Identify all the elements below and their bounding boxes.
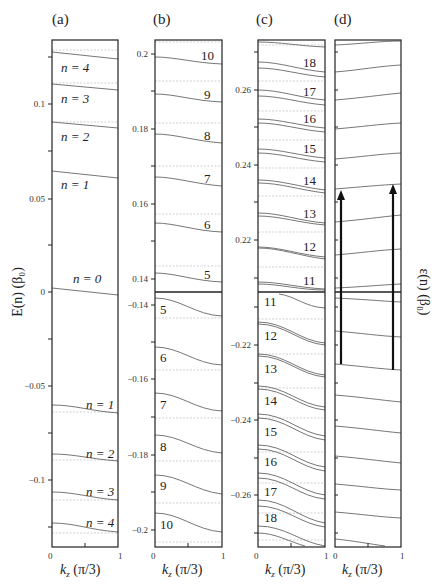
y-tick-label: 0.14 <box>132 274 148 284</box>
band-label: 18 <box>303 55 316 70</box>
band-label: 17 <box>264 484 278 499</box>
y-tick-label: −0.05 <box>24 381 45 391</box>
band-label: 8 <box>204 128 211 143</box>
y-tick-label: 0.2 <box>137 49 148 59</box>
panel-d-label: (d) <box>334 11 352 28</box>
x-tick-1: 1 <box>221 551 226 561</box>
panel-a: (a) n = 4 n = 3 n = 2 n = 1 n = 0 <box>10 11 123 579</box>
x-tick-0: 0 <box>254 551 259 561</box>
x-tick-0: 0 <box>333 551 338 561</box>
band-label: 5 <box>204 267 211 282</box>
y-tick-label: −0.26 <box>230 490 251 500</box>
n-label: n = 1 <box>61 177 89 192</box>
band-label: 6 <box>204 217 211 232</box>
x-tick-0: 0 <box>151 551 156 561</box>
band-label: 9 <box>204 87 211 102</box>
band-label: 18 <box>264 510 277 525</box>
y-tick-label: −0.18 <box>127 450 148 460</box>
n-label: n = 1 <box>86 397 114 412</box>
y-tick-label: 0.16 <box>132 199 148 209</box>
panel-c-label: (c) <box>256 11 273 28</box>
x-tick-1: 1 <box>324 551 329 561</box>
y-tick-label: 0.22 <box>235 235 251 245</box>
band-label: 10 <box>160 517 173 532</box>
y-tick-label: 0.18 <box>132 124 148 134</box>
y-tick-label: −0.2 <box>132 525 148 535</box>
y-tick-label: −0.14 <box>127 300 148 310</box>
y-tick-label: 0.24 <box>235 160 251 170</box>
x-tick-0: 0 <box>48 551 53 561</box>
y-axis-title-right: ε(n) (β₀) <box>416 268 432 315</box>
band-label: 14 <box>303 173 317 188</box>
y-tick-label: −0.24 <box>230 415 251 425</box>
y-tick-label: 0.05 <box>29 194 45 204</box>
y-tick-label: −0.1 <box>29 475 45 485</box>
n-label: n = 4 <box>61 60 90 75</box>
band-label: 13 <box>264 361 277 376</box>
transition-arrows <box>337 184 397 370</box>
panel-a-label: (a) <box>52 11 69 28</box>
band-label: 16 <box>264 454 278 469</box>
band-label: 7 <box>204 171 211 186</box>
arrow-head-icon <box>389 184 397 194</box>
n-label: n = 3 <box>61 91 90 106</box>
y-tick-label: 0.1 <box>34 99 45 109</box>
arrow-head-icon <box>337 190 345 200</box>
n-label: n = 0 <box>73 271 102 286</box>
panel-b-yticks <box>151 54 188 547</box>
x-axis-title: kz (π/3) <box>162 562 203 579</box>
panel-b-label: (b) <box>153 11 171 28</box>
band-label: 13 <box>303 206 316 221</box>
figure: (a) n = 4 n = 3 n = 2 n = 1 n = 0 <box>0 0 437 588</box>
x-tick-1: 1 <box>118 551 123 561</box>
band-label: 16 <box>303 111 317 126</box>
panel-d-bands <box>335 41 401 546</box>
n-label: n = 2 <box>61 129 90 144</box>
band-label: 5 <box>160 302 167 317</box>
band-label: 9 <box>160 478 167 493</box>
band-label: 17 <box>303 84 317 99</box>
panel-c: (c) <box>230 11 328 579</box>
y-tick-label: −0.16 <box>127 374 148 384</box>
band-label: 15 <box>264 424 277 439</box>
band-label: 11 <box>303 273 316 288</box>
band-label: 10 <box>201 48 214 63</box>
band-label: 11 <box>264 294 277 309</box>
y-tick-label: 0.26 <box>235 85 251 95</box>
band-label: 6 <box>160 350 167 365</box>
x-tick-1: 1 <box>400 551 405 561</box>
panel-d: (d) <box>333 11 432 579</box>
panel-d-frame <box>335 40 401 547</box>
y-axis-title: E(n) (β₀) <box>10 267 26 317</box>
band-label: 7 <box>160 397 167 412</box>
n-label: n = 3 <box>86 484 115 499</box>
band-label: 12 <box>303 239 316 254</box>
band-label: 12 <box>264 328 277 343</box>
x-axis-title: kz (π/3) <box>265 562 306 579</box>
band-label: 14 <box>264 393 278 408</box>
x-axis-title: kz (π/3) <box>60 562 101 579</box>
n-label: n = 4 <box>86 515 115 530</box>
y-tick-label: −0.22 <box>230 340 251 350</box>
x-axis-title: kz (π/3) <box>342 562 383 579</box>
panel-b: (b) <box>127 11 225 579</box>
band-label: 8 <box>160 439 167 454</box>
panel-b-frame <box>155 40 222 547</box>
band-label: 15 <box>303 141 316 156</box>
y-tick-label: 0 <box>41 287 46 297</box>
n-label: n = 2 <box>86 446 115 461</box>
